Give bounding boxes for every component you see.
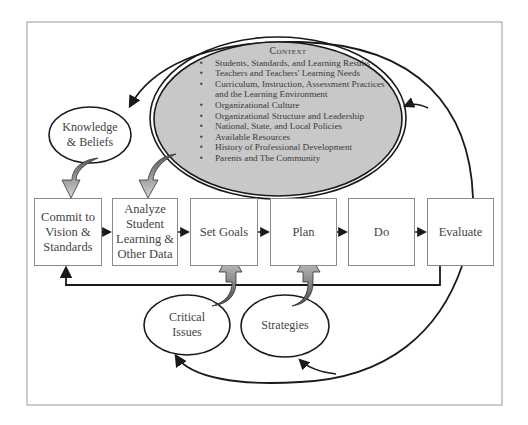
critical-issues-label: Critical Issues xyxy=(145,310,229,340)
context-list: Context Students, Standards, and Learnin… xyxy=(198,46,388,164)
arc-to-context-arrow xyxy=(405,104,428,108)
context-item: Organizational Culture xyxy=(198,100,388,111)
knowledge-to-commit-arrow xyxy=(62,158,98,198)
context-item: Teachers and Teachers' Learning Needs xyxy=(198,68,388,79)
step-plan: Plan xyxy=(270,198,337,266)
knowledge-label: Knowledge & Beliefs xyxy=(50,120,130,150)
context-to-analyze-arrow xyxy=(139,154,176,198)
step-set-goals: Set Goals xyxy=(190,198,258,266)
step-commit: Commit to Vision & Standards xyxy=(34,198,102,266)
step-do: Do xyxy=(348,198,415,266)
evaluate-to-commit-feedback xyxy=(66,266,440,285)
context-title: Context xyxy=(188,46,388,57)
step-evaluate: Evaluate xyxy=(427,198,494,266)
context-item: Parents and The Community xyxy=(198,153,388,164)
context-item: Available Resources xyxy=(198,132,388,143)
step-analyze: Analyze Student Learning & Other Data xyxy=(112,198,178,266)
professional-development-diagram: Context Students, Standards, and Learnin… xyxy=(0,0,528,425)
context-item: Students, Standards, and Learning Result… xyxy=(198,58,388,69)
context-item: History of Professional Development xyxy=(198,142,388,153)
context-item: Organizational Structure and Leadership xyxy=(198,111,388,122)
strategies-label: Strategies xyxy=(242,318,328,333)
context-item: National, State, and Local Policies xyxy=(198,121,388,132)
context-item: Curriculum, Instruction, Assessment Prac… xyxy=(198,79,388,100)
sweep-to-strategies-arrow xyxy=(300,360,336,374)
